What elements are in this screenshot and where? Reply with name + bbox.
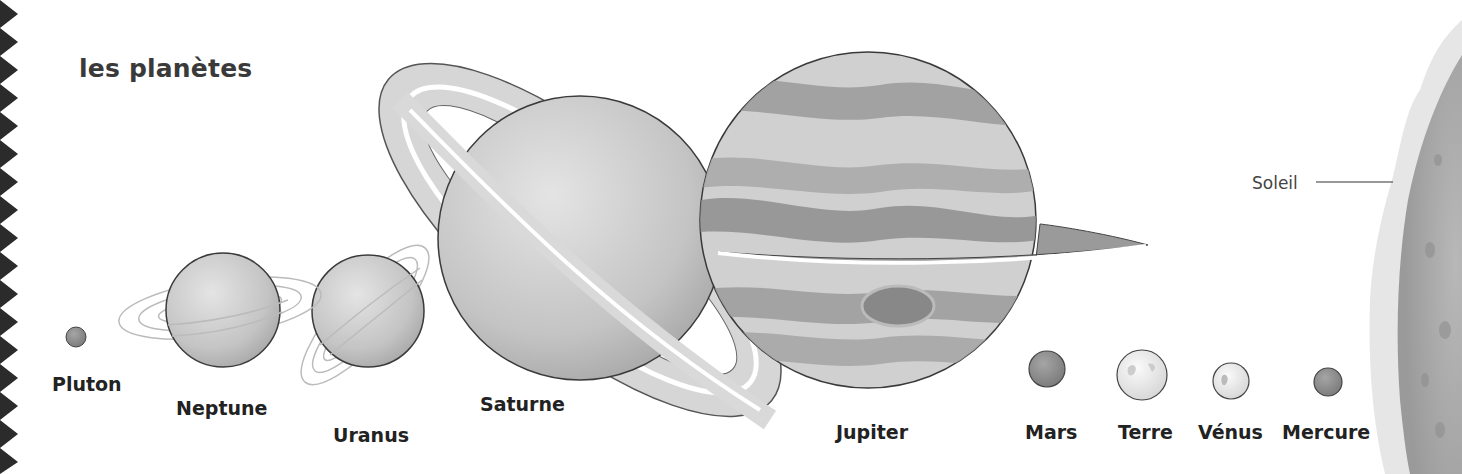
sun-icon	[1370, 20, 1462, 474]
venus-icon	[1213, 363, 1249, 399]
planet-label-uranus: Uranus	[333, 424, 409, 446]
mars-icon	[1029, 351, 1065, 387]
solar-system-diagram: les planètes Soleil Pluton Neptune Uranu…	[0, 0, 1462, 474]
planet-label-jupiter: Jupiter	[836, 421, 908, 443]
planet-label-mercury: Mercure	[1282, 421, 1370, 443]
pluto-icon	[66, 327, 86, 347]
planet-label-neptune: Neptune	[176, 397, 267, 419]
sun-label: Soleil	[1252, 173, 1298, 193]
page-title: les planètes	[79, 54, 252, 83]
earth-icon	[1117, 350, 1167, 400]
uranus-icon	[284, 229, 446, 400]
mercury-icon	[1314, 368, 1342, 396]
planet-label-venus: Vénus	[1198, 421, 1263, 443]
neptune-icon	[115, 253, 325, 367]
great-red-spot	[862, 286, 934, 326]
planet-label-mars: Mars	[1025, 421, 1077, 443]
planet-label-saturn: Saturne	[480, 393, 565, 415]
planet-label-earth: Terre	[1118, 421, 1173, 443]
jupiter-icon	[700, 52, 1148, 388]
planet-label-pluto: Pluton	[52, 373, 122, 395]
